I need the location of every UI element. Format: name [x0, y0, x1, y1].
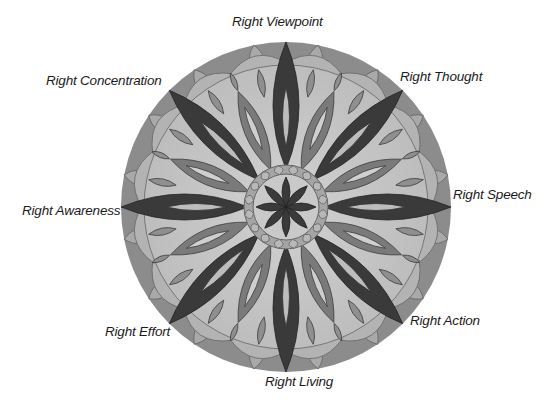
label-right-concentration: Right Concentration [46, 73, 162, 88]
label-right-action: Right Action [410, 313, 480, 328]
label-right-effort: Right Effort [105, 324, 170, 339]
label-right-viewpoint: Right Viewpoint [232, 14, 323, 29]
label-right-awareness: Right Awareness [22, 203, 120, 218]
label-right-thought: Right Thought [400, 69, 482, 84]
label-right-speech: Right Speech [453, 187, 532, 202]
label-right-living: Right Living [265, 374, 333, 389]
